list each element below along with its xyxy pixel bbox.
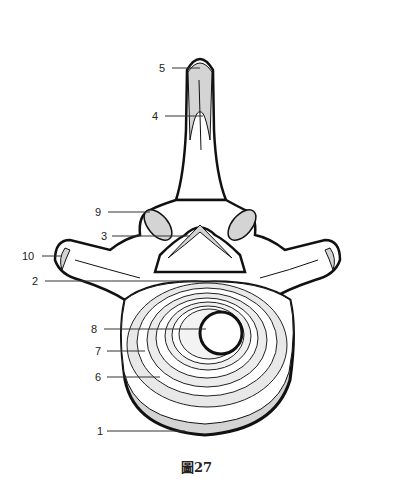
label-6: 6 (95, 371, 101, 383)
label-2: 2 (32, 275, 38, 287)
vertebra-diagram: 5 4 9 3 10 2 8 7 6 1 (0, 0, 393, 494)
label-10: 10 (22, 250, 34, 262)
label-3: 3 (101, 230, 107, 242)
nucleus-pulposus (200, 312, 242, 354)
label-4: 4 (152, 110, 158, 122)
figure-caption: 圖27 (0, 457, 393, 476)
label-9: 9 (95, 206, 101, 218)
spinous-process (176, 59, 226, 200)
label-5: 5 (159, 62, 165, 74)
intervertebral-disc (121, 282, 293, 435)
label-1: 1 (97, 425, 103, 437)
label-8: 8 (91, 323, 97, 335)
label-7: 7 (95, 345, 101, 357)
